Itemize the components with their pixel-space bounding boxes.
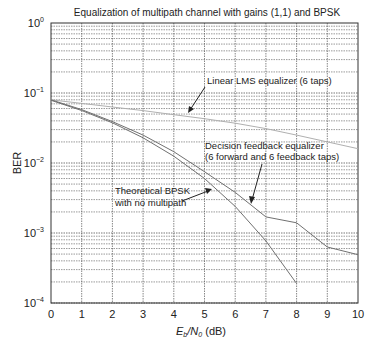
x-tick-label: 1 xyxy=(79,308,85,320)
x-tick-label: 8 xyxy=(294,308,300,320)
annotation-bpsk-text-1: Theoretical BPSK xyxy=(115,185,191,196)
annotation-lms-text: Linear LMS equalizer (6 taps) xyxy=(207,75,332,86)
y-tick-label: 100 xyxy=(28,16,44,29)
y-tick-label: 10−2 xyxy=(24,156,44,169)
y-tick-label: 10−3 xyxy=(24,226,44,239)
annotation-theoretical-bpsk: Theoretical BPSK with no multipath xyxy=(114,185,212,208)
annotation-bpsk-text-2: with no multipath xyxy=(114,197,186,208)
x-axis-label: Eb/N0 (dB) xyxy=(176,325,226,338)
arrow-line xyxy=(190,87,205,110)
x-tick-label: 0 xyxy=(48,308,54,320)
x-tick-label: 5 xyxy=(201,308,207,320)
arrow-head-icon xyxy=(205,188,212,194)
grid xyxy=(51,23,358,303)
x-tick-label: 7 xyxy=(263,308,269,320)
y-axis-ticks: 10010−110−210−310−4 xyxy=(24,16,44,309)
annotation-linear-lms: Linear LMS equalizer (6 taps) xyxy=(188,75,332,113)
chart-title: Equalization of multipath channel with g… xyxy=(74,7,341,18)
ber-chart: Equalization of multipath channel with g… xyxy=(0,0,378,342)
x-tick-label: 3 xyxy=(140,308,146,320)
arrow-head-icon xyxy=(188,106,194,113)
x-axis-ticks: 012345678910 xyxy=(48,308,364,320)
x-tick-label: 2 xyxy=(109,308,115,320)
y-axis-label: BER xyxy=(11,152,23,175)
x-tick-label: 6 xyxy=(232,308,238,320)
x-tick-label: 9 xyxy=(324,308,330,320)
annotation-dfe-text-2: (6 forward and 6 feedback taps) xyxy=(205,151,339,162)
y-tick-label: 10−1 xyxy=(24,86,44,99)
arrow-line xyxy=(252,164,262,200)
annotation-dfe: Decision feedback equalizer (6 forward a… xyxy=(205,140,339,204)
y-tick-label: 10−4 xyxy=(24,296,44,309)
annotation-dfe-text-1: Decision feedback equalizer xyxy=(205,140,324,151)
arrow-head-icon xyxy=(249,196,255,204)
x-tick-label: 4 xyxy=(171,308,177,320)
x-tick-label: 10 xyxy=(352,308,364,320)
